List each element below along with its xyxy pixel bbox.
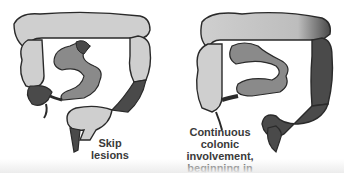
- descending-colon-diseased: [311, 38, 333, 106]
- appendix: [44, 104, 47, 118]
- small-intestine: [230, 43, 288, 96]
- ascending-colon: [21, 40, 44, 88]
- ascending-colon: [197, 44, 222, 112]
- bottom-shading: [0, 159, 344, 173]
- terminal-ileum: [50, 96, 62, 100]
- small-intestine: [54, 43, 101, 100]
- transverse-colon: [201, 13, 330, 48]
- panel-skip-lesions: Skip lesions: [0, 0, 172, 173]
- descending-colon-lesion: [112, 80, 146, 112]
- cecum-lesion: [27, 86, 52, 106]
- descending-colon: [130, 36, 151, 82]
- caption-skip-lesions: Skip lesions: [80, 137, 140, 161]
- caption-line: Skip: [80, 137, 140, 149]
- caption-line: Continuous: [172, 126, 268, 138]
- rectum-diseased: [268, 126, 282, 152]
- terminal-ileum: [222, 96, 238, 100]
- panel-continuous-involvement: Continuous colonic involvement, beginnin…: [172, 0, 344, 173]
- rectum-lesion: [70, 128, 80, 152]
